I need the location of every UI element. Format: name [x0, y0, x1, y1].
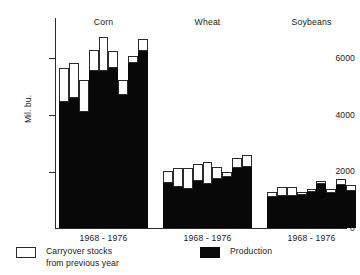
legend-entry-carryover: Carryover stocks from previous year	[16, 246, 119, 269]
chart-legend: Carryover stocks from previous year Prod…	[0, 246, 355, 275]
bar-segment-carryover	[59, 68, 69, 102]
bar-segment-production	[99, 71, 109, 229]
bar-segment-production	[242, 167, 252, 228]
bar-segment-carryover	[336, 179, 346, 184]
bar-corn-1976	[138, 39, 148, 228]
x-axis-line	[55, 228, 347, 229]
legend-label-production: Production	[230, 246, 272, 258]
bar-segment-production	[326, 193, 336, 228]
bar-segment-carryover	[138, 39, 148, 50]
bar-segment-carryover	[118, 80, 128, 94]
bar-corn-1968	[59, 68, 69, 228]
bar-segment-carryover	[287, 187, 297, 196]
bar-segment-production	[183, 189, 193, 228]
bar-segment-production	[173, 187, 183, 228]
bar-segment-production	[89, 71, 99, 228]
bar-segment-production	[163, 183, 173, 228]
bar-segment-carryover	[193, 164, 203, 182]
bar-segment-carryover	[242, 155, 252, 167]
bar-segment-production	[277, 196, 287, 228]
bar-segment-carryover	[203, 162, 213, 184]
bar-segment-carryover	[69, 63, 79, 98]
bar-segment-production	[193, 181, 203, 228]
bar-segment-carryover	[99, 37, 109, 70]
bar-segment-carryover	[89, 50, 99, 71]
y-axis-label: Mil. bu.	[23, 74, 33, 144]
bar-soybeans-1972	[307, 189, 317, 228]
bar-segment-carryover	[108, 51, 118, 67]
bar-segment-production	[307, 192, 317, 228]
bar-segment-production	[267, 197, 277, 228]
bar-wheat-1969	[173, 168, 183, 228]
bar-segment-production	[287, 196, 297, 228]
bar-corn-1969	[69, 63, 79, 228]
bar-wheat-1972	[203, 162, 213, 228]
bar-soybeans-1971	[297, 192, 307, 228]
bar-corn-1975	[128, 56, 138, 228]
bar-segment-production	[69, 98, 79, 228]
bar-soybeans-1969	[277, 187, 287, 228]
legend-swatch-production-icon	[200, 247, 220, 258]
bar-segment-carryover	[79, 80, 89, 111]
bar-segment-carryover	[173, 168, 183, 187]
bars-soybeans	[267, 18, 356, 228]
bar-segment-production	[232, 168, 242, 228]
bar-segment-production	[108, 68, 118, 228]
bar-soybeans-1975	[336, 179, 346, 228]
bar-segment-production	[138, 51, 148, 228]
bar-corn-1971	[89, 50, 99, 228]
bar-wheat-1976	[242, 155, 252, 229]
bar-segment-production	[346, 191, 356, 228]
bar-wheat-1974	[222, 172, 232, 228]
bar-soybeans-1976	[346, 185, 356, 228]
legend-entry-production: Production	[200, 246, 272, 258]
bar-segment-production	[297, 195, 307, 228]
bar-segment-carryover	[163, 171, 173, 183]
bar-segment-production	[79, 112, 89, 228]
bar-segment-production	[59, 102, 69, 228]
bar-segment-production	[212, 179, 222, 228]
bar-corn-1972	[99, 37, 109, 228]
bar-soybeans-1970	[287, 187, 297, 228]
bar-segment-carryover	[277, 187, 287, 196]
bar-segment-carryover	[128, 56, 138, 64]
bar-segment-carryover	[346, 185, 356, 192]
bars-wheat	[163, 18, 252, 228]
bar-segment-carryover	[316, 181, 326, 184]
bar-segment-production	[222, 177, 232, 228]
bar-wheat-1968	[163, 171, 173, 228]
bar-wheat-1973	[212, 167, 222, 228]
bar-soybeans-1968	[267, 192, 277, 228]
bar-wheat-1975	[232, 158, 242, 228]
bar-segment-carryover	[232, 158, 242, 167]
crop-group-corn: Corn	[59, 18, 148, 228]
legend-label-carryover: Carryover stocks from previous year	[46, 246, 119, 269]
bar-corn-1973	[108, 51, 118, 228]
plot-area: Corn Wheat Soybeans	[55, 18, 347, 228]
bars-corn	[59, 18, 148, 228]
bar-segment-carryover	[267, 192, 277, 197]
bar-segment-production	[118, 95, 128, 228]
x-axis-label-soybeans: 1968 - 1976	[249, 233, 360, 243]
bar-segment-production	[128, 63, 138, 228]
bar-corn-1974	[118, 80, 128, 228]
bar-segment-carryover	[212, 167, 222, 180]
bar-segment-production	[316, 184, 326, 228]
bar-corn-1970	[79, 80, 89, 228]
bar-segment-carryover	[222, 172, 232, 177]
bar-soybeans-1974	[326, 189, 336, 228]
bar-segment-carryover	[297, 192, 307, 195]
legend-swatch-carryover-icon	[16, 247, 36, 258]
bar-soybeans-1973	[316, 181, 326, 228]
crop-group-soybeans: Soybeans	[267, 18, 356, 228]
crop-group-wheat: Wheat	[163, 18, 252, 228]
bar-segment-production	[336, 185, 346, 228]
bar-wheat-1970	[183, 168, 193, 228]
bar-segment-carryover	[307, 189, 317, 192]
bar-wheat-1971	[193, 164, 203, 228]
bar-segment-carryover	[326, 189, 336, 194]
bar-segment-production	[203, 184, 213, 228]
bar-segment-carryover	[183, 168, 193, 189]
